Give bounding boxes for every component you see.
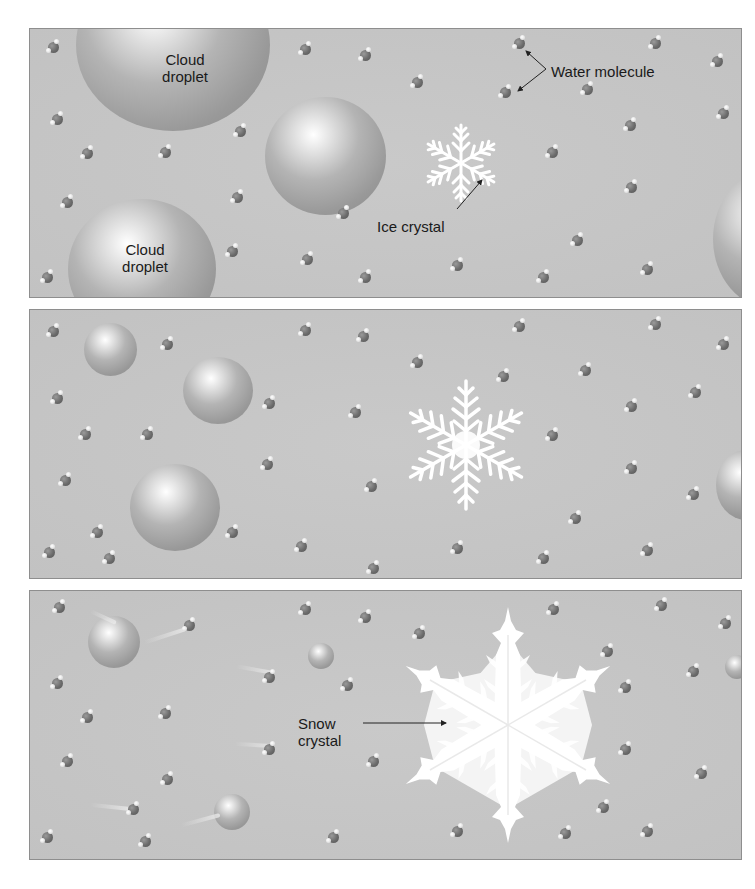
water-molecule-icon [618, 679, 632, 693]
water-molecule-icon [716, 105, 730, 119]
water-molecule-icon [40, 269, 54, 283]
water-molecule-icon [568, 510, 582, 524]
water-molecule-icon [326, 829, 340, 843]
panel-2 [29, 309, 742, 579]
water-molecule-icon [570, 232, 584, 246]
snow-crystal-icon [394, 607, 622, 843]
panel-1: Cloud droplet Cloud droplet Water molecu… [29, 28, 742, 298]
water-molecule-icon [80, 709, 94, 723]
panel-3: Snow crystal [29, 590, 742, 860]
water-molecule-icon [78, 426, 92, 440]
water-molecule-icon [545, 427, 559, 441]
water-molecule-icon [262, 395, 276, 409]
water-molecule-icon [450, 540, 464, 554]
water-molecule-icon [46, 323, 60, 337]
water-molecule-icon [102, 550, 116, 564]
water-molecule-icon [358, 609, 372, 623]
panel-1-graphics [30, 29, 742, 298]
water-molecule-icon [716, 336, 730, 350]
water-molecule-icon [366, 560, 380, 574]
water-molecule-icon [624, 179, 638, 193]
water-molecule-icon [710, 53, 724, 67]
panel-2-graphics [30, 310, 742, 579]
water-molecule-icon [640, 542, 654, 556]
water-molecule-icon [298, 41, 312, 55]
water-molecule-icon [348, 404, 362, 418]
water-molecule-icon [688, 384, 702, 398]
water-molecule-icon [260, 456, 274, 470]
water-molecule-icon [498, 84, 512, 98]
water-molecule-icon [364, 478, 378, 492]
water-molecule-icon [138, 833, 152, 847]
water-molecule-icon [50, 675, 64, 689]
water-molecule-icon [618, 741, 632, 755]
water-molecule-icon [80, 145, 94, 159]
water-molecule-icon [686, 663, 700, 677]
ice-crystal-icon [424, 125, 498, 201]
water-molecule-icon [366, 753, 380, 767]
water-molecule-icon [298, 601, 312, 615]
water-molecule-icon [358, 47, 372, 61]
water-molecule-icon [686, 486, 700, 500]
water-molecule-icon [340, 677, 354, 691]
snow-crystal-label: Snow crystal [298, 715, 341, 749]
water-molecule-icon [356, 328, 370, 342]
water-molecule-icon [160, 771, 174, 785]
water-molecule-icon [160, 336, 174, 350]
water-molecule-icon [536, 550, 550, 564]
water-molecule-icon [648, 35, 662, 49]
water-molecule-icon [46, 39, 60, 53]
water-molecule-icon [450, 823, 464, 837]
water-molecule-icon [52, 599, 66, 613]
water-molecule-icon [558, 825, 572, 839]
water-molecule-icon [225, 243, 239, 257]
water-molecule-icon [512, 35, 526, 49]
water-molecule-icon [90, 524, 104, 538]
ice-crystal-icon [404, 381, 528, 509]
water-molecule-icon [262, 669, 276, 683]
water-molecule-icon [60, 753, 74, 767]
water-molecule-icon [182, 617, 196, 631]
water-molecule-icon [58, 472, 72, 486]
water-molecule-icon [158, 705, 172, 719]
water-molecule-icon [358, 269, 372, 283]
water-molecule-icon [600, 643, 614, 657]
water-molecule-icon [496, 368, 510, 382]
water-molecule-icon [623, 117, 637, 131]
water-molecule-icon [262, 741, 276, 755]
water-molecule-icon [580, 81, 594, 95]
water-molecule-icon [230, 189, 244, 203]
water-molecule-icon [42, 544, 56, 558]
water-molecule-icon [50, 111, 64, 125]
water-molecule-icon [50, 390, 64, 404]
water-molecule-icon [640, 823, 654, 837]
water-molecule-icon [412, 625, 426, 639]
water-molecule-icon [718, 615, 732, 629]
water-molecule-icon [410, 74, 424, 88]
water-molecule-icon [300, 251, 314, 265]
water-molecule-icon [233, 123, 247, 137]
water-molecule-icon [640, 261, 654, 275]
water-molecule-icon [694, 765, 708, 779]
water-molecule-icon [624, 398, 638, 412]
water-molecule-icon [140, 426, 154, 440]
water-molecule-icon [126, 801, 140, 815]
panel-3-graphics [30, 591, 742, 860]
water-molecule-icon [336, 205, 350, 219]
water-molecule-icon [410, 354, 424, 368]
water-molecule-icon [158, 144, 172, 158]
water-molecule-icon [546, 601, 560, 615]
water-molecule-icon [450, 257, 464, 271]
water-molecule-icon [536, 269, 550, 283]
water-molecule-icon [60, 194, 74, 208]
water-molecule-icon [648, 316, 662, 330]
water-molecule-icon [298, 322, 312, 336]
water-molecule-icon [596, 799, 610, 813]
water-molecule-icon [294, 538, 308, 552]
water-molecule-icon [624, 460, 638, 474]
water-molecule-icon [545, 144, 559, 158]
water-molecule-icon [40, 829, 54, 843]
water-molecule-icon [578, 362, 592, 376]
water-molecule-icon [512, 318, 526, 332]
water-molecule-icon [225, 524, 239, 538]
